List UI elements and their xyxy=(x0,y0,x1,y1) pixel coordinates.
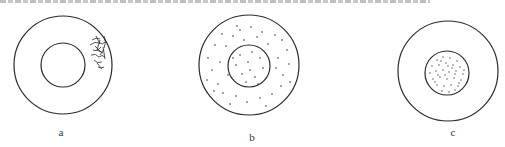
outer-circle-b xyxy=(199,15,299,115)
scattered-dots-b xyxy=(206,25,291,107)
outer-circle-c xyxy=(398,21,498,121)
panel-label-c: c xyxy=(451,126,456,138)
inner-circle-c xyxy=(425,51,469,95)
panel-a xyxy=(14,16,112,114)
lesion-hatching-a xyxy=(90,36,106,69)
inner-circle-b xyxy=(228,45,270,87)
diagram-canvas xyxy=(0,0,505,147)
panel-label-a: a xyxy=(59,126,64,138)
dense-dots-c xyxy=(429,56,464,92)
panel-label-b: b xyxy=(249,131,255,143)
panel-c xyxy=(398,21,498,121)
panel-b xyxy=(199,15,299,115)
outer-circle-a xyxy=(14,16,112,114)
inner-circle-a xyxy=(41,43,85,87)
